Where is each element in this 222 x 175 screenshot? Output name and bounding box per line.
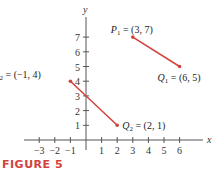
tick-marks: −3−2−11234561234567 [34,32,182,156]
y-tick-label: 6 [75,47,80,58]
x-tick-label: −2 [49,145,60,156]
y-tick-label: 3 [75,91,80,102]
x-tick-label: 3 [130,145,135,156]
figure-label: FIGURE 5 [2,158,63,171]
point-marker [69,79,73,83]
point-label-q1: Q1 = (6, 5) [158,72,201,85]
point-label-p2: P2 = (−1, 4) [0,69,41,82]
y-axis-label: y [82,4,88,15]
x-tick-label: −3 [34,145,45,156]
point-marker [178,65,182,69]
segment-p2q2 [70,81,117,125]
point-label-q2: Q2 = (2, 1) [122,120,165,133]
point-label-p1: P1 = (3, 7) [110,24,153,37]
y-tick-label: 5 [75,62,80,73]
y-tick-label: 7 [75,32,80,43]
y-tick-label: 1 [75,120,80,131]
segment-p1q1 [133,37,180,66]
y-tick-label: 2 [75,106,80,117]
point-marker [131,35,135,39]
x-tick-label: 2 [115,145,120,156]
x-tick-label: 6 [177,145,182,156]
x-axis-label: x [206,134,212,145]
x-tick-label: 4 [146,145,151,156]
coordinate-plane: xy −3−2−11234561234567 P1 = (3, 7)Q1 = (… [0,0,222,175]
x-tick-label: 5 [162,145,167,156]
point-marker [115,124,119,128]
x-tick-label: 1 [99,145,104,156]
point-labels: P1 = (3, 7)Q1 = (6, 5)P2 = (−1, 4)Q2 = (… [0,24,201,133]
x-tick-label: −1 [65,145,76,156]
